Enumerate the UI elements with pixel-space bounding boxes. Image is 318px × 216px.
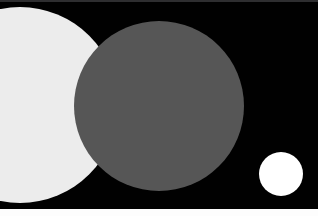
white-dot-shape <box>259 152 303 196</box>
top-edge-rule <box>0 0 318 2</box>
bottom-white-band <box>0 209 318 216</box>
image-canvas <box>0 0 318 216</box>
gray-circle-shape <box>74 21 244 191</box>
